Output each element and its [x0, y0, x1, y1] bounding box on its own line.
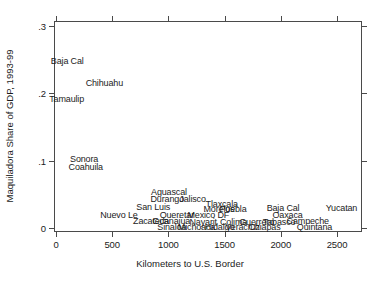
data-point-label: Baja Cal [51, 56, 84, 66]
data-point-label: Chihuahu [86, 78, 123, 88]
y-tick-right-.1 [362, 161, 367, 162]
x-tick-1500 [225, 232, 226, 237]
data-point-label: Jalisco [179, 194, 205, 204]
plot-layers: 05001000150020002500 0.1.2.3 Baja CalChi… [0, 0, 380, 281]
y-tick-right-.3 [362, 26, 367, 27]
x-tick-2000 [281, 232, 282, 237]
data-point-label: Tamaulip [49, 94, 84, 104]
x-ticklabel-500: 500 [104, 239, 120, 250]
y-tick-.3 [49, 26, 54, 27]
x-axis-title: Kilometers to U.S. Border [136, 258, 244, 269]
data-point-label: Yucatan [326, 203, 357, 213]
x-tick-top-0 [56, 16, 57, 21]
x-ticklabel-2500: 2500 [327, 239, 348, 250]
y-tick-0 [49, 228, 54, 229]
x-tick-500 [112, 232, 113, 237]
scatter-chart: 05001000150020002500 0.1.2.3 Baja CalChi… [0, 0, 380, 281]
data-point-label: Chiapas [249, 222, 281, 232]
x-tick-0 [56, 232, 57, 237]
x-tick-top-2000 [281, 16, 282, 21]
x-tick-top-500 [112, 16, 113, 21]
y-ticklabel-.1: .1 [24, 155, 46, 166]
x-ticklabel-1500: 1500 [214, 239, 235, 250]
x-tick-top-1000 [168, 16, 169, 21]
data-point-label: Quintana [297, 222, 332, 232]
y-tick-.1 [49, 161, 54, 162]
x-ticklabel-1000: 1000 [158, 239, 179, 250]
x-tick-1000 [168, 232, 169, 237]
y-tick-right-.2 [362, 93, 367, 94]
x-ticklabel-0: 0 [53, 239, 58, 250]
y-tick-right-0 [362, 228, 367, 229]
x-tick-2500 [337, 232, 338, 237]
data-point-label: Coahuila [69, 162, 103, 172]
data-point-label: Nuevo Le [100, 210, 137, 220]
x-tick-top-2500 [337, 16, 338, 21]
y-ticklabel-.2: .2 [24, 88, 46, 99]
y-axis-title: Maquiladora Share of GDP, 1993-99 [4, 50, 15, 203]
y-ticklabel-.3: .3 [24, 21, 46, 32]
x-ticklabel-2000: 2000 [270, 239, 291, 250]
x-tick-top-1500 [225, 16, 226, 21]
y-ticklabel-0: 0 [24, 223, 46, 234]
